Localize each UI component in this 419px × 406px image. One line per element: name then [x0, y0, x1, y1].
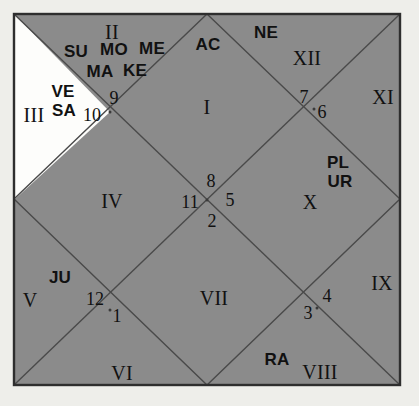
- chart-canvas: [0, 0, 419, 406]
- vedic-birth-chart: I II III IV V VI VII VIII IX X XI XII 9 …: [0, 0, 419, 406]
